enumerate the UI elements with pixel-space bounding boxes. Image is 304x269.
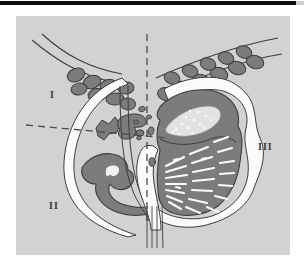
figure-page: I II III bbox=[0, 0, 304, 269]
zone-label-i: I bbox=[50, 90, 55, 100]
top-bar-tail bbox=[296, 1, 304, 5]
duct-node bbox=[149, 158, 155, 167]
zone-label-iii: III bbox=[258, 142, 273, 152]
diagram-panel: I II III bbox=[16, 16, 290, 255]
top-black-bar bbox=[0, 1, 296, 5]
zone-label-ii: II bbox=[49, 201, 59, 211]
anatomical-diagram bbox=[16, 16, 290, 255]
